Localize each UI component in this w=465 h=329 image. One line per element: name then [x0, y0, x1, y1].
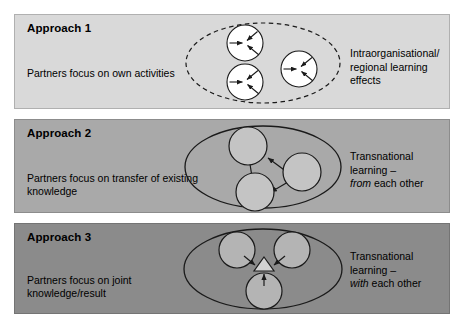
panel-approach-1: Approach 1 Partners focus on own activit… — [14, 14, 450, 109]
approach-1-outcome: Intraorganisational/ regional learning e… — [350, 47, 465, 88]
approach-3-title: Approach 3 — [27, 231, 91, 243]
approach-1-diagram — [175, 15, 355, 108]
approach-1-outcome-line-1: Intraorganisational/ — [350, 47, 439, 59]
approach-2-outcome: Transnational learning – from each other — [350, 150, 465, 191]
partner-circle-right — [283, 153, 321, 191]
approach-1-title: Approach 1 — [27, 22, 91, 34]
approach-1-outcome-line-3: effects — [350, 74, 381, 86]
partner-circle-1 — [227, 25, 263, 61]
approach-3-outcome: Transnational learning – with each other — [350, 250, 465, 291]
approach-3-outcome-line-3-rest: each other — [369, 277, 422, 289]
partner-circle-3 — [281, 51, 317, 87]
approach-3-outcome-line-1: Transnational — [350, 250, 413, 262]
joint-result-triangle — [254, 257, 274, 271]
dashed-enclosure-ellipse — [186, 23, 340, 103]
approach-2-outcome-line-2: learning – — [350, 164, 396, 176]
panel-approach-3: Approach 3 Partners focus on joint knowl… — [14, 223, 450, 314]
partner-circle-top-right — [274, 232, 310, 268]
partner-circle-bottom — [236, 173, 274, 211]
approach-1-outcome-line-2: regional learning — [350, 61, 428, 73]
panel-approach-2: Approach 2 Partners focus on transfer of… — [14, 119, 450, 213]
approach-2-outcome-line-1: Transnational — [350, 150, 413, 162]
partner-circle-top — [229, 127, 267, 165]
approach-2-diagram — [175, 120, 355, 212]
approach-2-outcome-line-3-rest: each other — [371, 177, 424, 189]
partner-circle-top-left — [219, 232, 255, 268]
approach-3-diagram — [175, 224, 355, 313]
partner-circle-2 — [227, 64, 263, 100]
approaches-figure: Approach 1 Partners focus on own activit… — [0, 0, 465, 329]
approach-3-outcome-line-2: learning – — [350, 264, 396, 276]
approach-2-outcome-emphasis: from — [350, 177, 371, 189]
approach-3-outcome-emphasis: with — [350, 277, 369, 289]
approach-2-title: Approach 2 — [27, 127, 91, 139]
